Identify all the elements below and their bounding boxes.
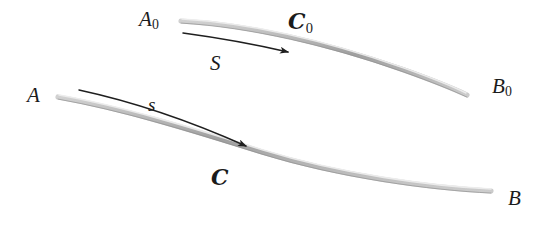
lower-curve-group (58, 95, 491, 193)
lower-curve-highlight (59, 95, 491, 189)
label-upper-end-subscript: 0 (505, 84, 512, 99)
upper-curve-edge (181, 23, 467, 97)
upper-arrow-shaft (183, 33, 288, 52)
upper-arc-length-arrow (183, 33, 288, 52)
label-lower-curve-name: C (211, 166, 229, 188)
upper-curve-highlight (182, 19, 466, 93)
label-upper-curve-script-letter: C (288, 8, 306, 34)
label-upper-start-point: A0 (139, 9, 159, 30)
label-upper-start-letter: A (139, 7, 152, 31)
lower-curve (58, 97, 491, 191)
geometry-figure: A0 C0 S B0 A s C B (0, 0, 544, 228)
figure-canvas (0, 0, 544, 228)
label-upper-curve-name: C0 (288, 10, 313, 33)
label-upper-curve-subscript: 0 (306, 20, 313, 36)
label-upper-start-subscript: 0 (152, 17, 159, 32)
label-upper-arc-length: S (210, 53, 221, 74)
label-upper-end-point: B0 (492, 76, 512, 97)
upper-curve (181, 21, 467, 95)
label-lower-end-point: B (508, 188, 521, 209)
lower-curve-edge (58, 99, 491, 193)
label-lower-arc-length: s (148, 95, 155, 114)
label-lower-start-point: A (27, 85, 40, 106)
label-upper-end-letter: B (492, 74, 505, 98)
upper-curve-group (181, 19, 467, 97)
